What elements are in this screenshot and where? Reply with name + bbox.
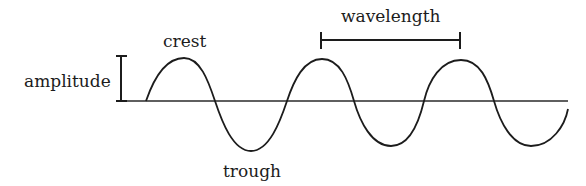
amplitude-label: amplitude (24, 71, 111, 91)
wave-diagram: crest trough amplitude wavelength (0, 0, 586, 186)
amplitude-bracket (116, 56, 127, 101)
wavelength-bracket (321, 32, 460, 49)
trough-label: trough (223, 161, 281, 181)
crest-label: crest (163, 31, 206, 51)
wavelength-label: wavelength (341, 6, 441, 26)
wave-curve (146, 58, 568, 151)
